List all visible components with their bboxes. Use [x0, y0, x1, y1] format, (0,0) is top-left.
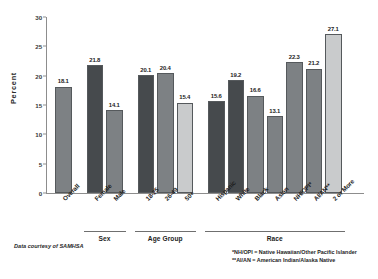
y-tick-mark: [43, 134, 46, 135]
bar-value-label: 20.4: [160, 65, 171, 71]
bar-series: 18.121.814.120.120.415.415.619.216.613.1…: [46, 17, 364, 193]
bar-value-label: 13.1: [269, 108, 280, 114]
bar-column: 14.1: [106, 17, 123, 193]
group-rule: [205, 231, 345, 232]
group-label: Sex: [84, 235, 126, 242]
bar-value-label: 22.3: [289, 54, 300, 60]
bar: [55, 87, 72, 193]
y-tick-mark: [43, 17, 46, 18]
bar: [325, 34, 342, 193]
y-tick-mark: [43, 105, 46, 106]
bar: [208, 101, 225, 193]
bar-value-label: 18.1: [58, 78, 69, 84]
bar-column: 21.8: [87, 17, 104, 193]
bar: [247, 96, 264, 193]
group-rule: [84, 231, 126, 232]
bar-value-label: 14.1: [109, 102, 120, 108]
y-tick-mark: [43, 46, 46, 47]
bar-column: 15.6: [208, 17, 225, 193]
bar: [228, 80, 245, 193]
group-label: Race: [205, 235, 345, 242]
bar-column: 20.1: [138, 17, 155, 193]
bar-column: 16.6: [247, 17, 264, 193]
bar-value-label: 16.6: [250, 87, 261, 93]
footnote-aian: **AI/AN = American Indian/Alaska Native: [232, 256, 357, 264]
bar-column: 18.1: [55, 17, 72, 193]
bar-chart: Percent 051015202530 18.121.814.120.120.…: [0, 0, 378, 279]
bar: [177, 103, 194, 193]
bar-value-label: 15.4: [179, 94, 190, 100]
y-tick-mark: [43, 163, 46, 164]
bar: [267, 116, 284, 193]
source-note: Data courtesy of SAMHSA: [14, 243, 84, 249]
bar-value-label: 15.6: [211, 93, 222, 99]
group-label: Age Group: [135, 235, 197, 242]
bar-column: 27.1: [325, 17, 342, 193]
bar-column: 15.4: [177, 17, 194, 193]
footnote-nhopi: *NH/OPI = Native Hawaiian/Other Pacific …: [232, 248, 357, 256]
bar: [138, 75, 155, 193]
bar-column: 13.1: [267, 17, 284, 193]
group-rule: [135, 231, 197, 232]
bar: [106, 110, 123, 193]
bar-value-label: 27.1: [328, 26, 339, 32]
y-axis-title: Percent: [9, 72, 18, 104]
bar-column: 22.3: [286, 17, 303, 193]
bar: [157, 73, 174, 193]
y-tick-mark: [43, 75, 46, 76]
bar-value-label: 20.1: [140, 67, 151, 73]
bar: [306, 69, 323, 193]
bar-column: 20.4: [157, 17, 174, 193]
bar-column: 19.2: [228, 17, 245, 193]
bar: [286, 62, 303, 193]
bar-value-label: 21.8: [89, 57, 100, 63]
y-tick-mark: [43, 193, 46, 194]
bar-column: 21.2: [306, 17, 323, 193]
footnotes: *NH/OPI = Native Hawaiian/Other Pacific …: [232, 248, 357, 265]
bar-value-label: 21.2: [308, 60, 319, 66]
bar-value-label: 19.2: [230, 72, 241, 78]
bar: [87, 65, 104, 193]
